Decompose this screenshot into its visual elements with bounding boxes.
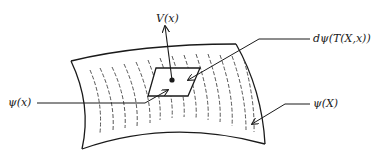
tangent-parallelogram — [148, 68, 200, 96]
label-point-image: ψ(x) — [8, 97, 31, 108]
label-tangent-image: dψ(T(X,x)) — [313, 33, 371, 44]
label-surface-image: ψ(X) — [313, 98, 338, 109]
surface-diagram — [0, 0, 380, 164]
label-vector-field: V(x) — [156, 13, 179, 24]
